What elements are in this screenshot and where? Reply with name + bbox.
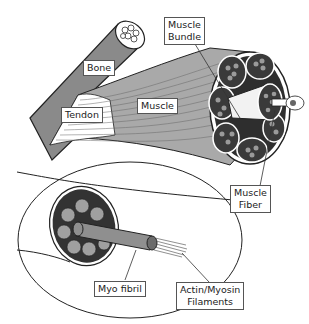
label-actin-myosin-filaments: Actin/Myosin Filaments: [176, 282, 244, 310]
label-filaments-line1: Actin/Myosin: [180, 284, 240, 296]
label-muscle-fiber-line1: Muscle: [234, 187, 267, 199]
label-bone-text: Bone: [87, 62, 111, 73]
label-muscle-text: Muscle: [141, 100, 174, 111]
label-muscle-bundle-line2: Bundle: [168, 31, 201, 43]
label-filaments-line2: Filaments: [180, 296, 240, 308]
muscle-diagram: [0, 0, 309, 324]
label-tendon-text: Tendon: [65, 109, 99, 120]
label-bone: Bone: [83, 60, 115, 76]
label-muscle: Muscle: [137, 98, 178, 114]
label-myofibril-text: Myo fibril: [98, 283, 142, 294]
label-tendon: Tendon: [61, 107, 103, 123]
label-muscle-fiber-line2: Fiber: [234, 199, 267, 211]
label-muscle-bundle: Muscle Bundle: [164, 17, 205, 45]
label-muscle-fiber: Muscle Fiber: [230, 185, 271, 213]
label-muscle-bundle-line1: Muscle: [168, 19, 201, 31]
label-myofibril: Myo fibril: [94, 281, 146, 297]
